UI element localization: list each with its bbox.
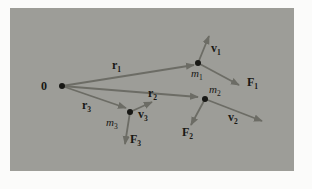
figure-svg: 0 r1 r2 r3 v1 v2 v3 F1 F2 F3 m1 m2 m3	[0, 0, 312, 189]
mass-m3-dot	[127, 109, 133, 115]
origin-label: 0	[41, 79, 47, 93]
mass-m2-dot	[202, 96, 208, 102]
origin-dot	[59, 83, 65, 89]
mass-m1-dot	[195, 60, 201, 66]
mechanics-figure: 0 r1 r2 r3 v1 v2 v3 F1 F2 F3 m1 m2 m3	[0, 0, 312, 189]
